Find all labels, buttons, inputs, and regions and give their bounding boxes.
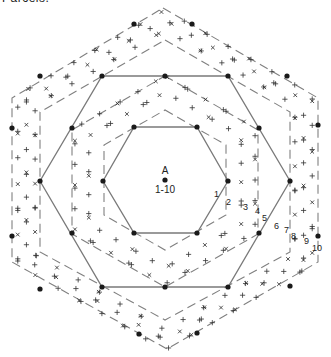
cross-marker: [221, 248, 226, 253]
cross-marker: [32, 108, 37, 113]
point-dot: [225, 178, 230, 183]
point-dot: [9, 125, 14, 130]
cross-marker: [71, 60, 76, 65]
cross-marker: [92, 48, 97, 53]
cross-marker: [292, 139, 297, 144]
cross-marker: [106, 50, 111, 55]
cross-marker: [91, 69, 96, 74]
cross-marker: [115, 310, 120, 315]
point-dot: [194, 330, 199, 335]
cross-marker: [165, 262, 172, 269]
cross-marker: [48, 73, 53, 78]
cross-marker: [76, 277, 81, 282]
cross-marker: [292, 92, 299, 99]
cross-marker: [129, 245, 136, 252]
point-dot: [162, 177, 167, 182]
ring-label: 9: [304, 236, 309, 246]
cross-marker: [284, 255, 291, 262]
cross-marker: [188, 331, 195, 338]
cross-marker: [202, 96, 209, 103]
center-sublabel: 1-10: [155, 184, 175, 195]
cross-marker: [292, 188, 297, 193]
cross-marker: [14, 180, 21, 187]
vertex-dots: [9, 21, 320, 336]
cross-marker: [34, 253, 39, 258]
point-dot: [37, 178, 42, 183]
cross-marker: [269, 69, 274, 74]
cross-marker: [24, 172, 29, 177]
cross-marker: [86, 150, 91, 155]
cross-marker: [113, 237, 118, 242]
cross-marker: [231, 308, 236, 313]
cross-marker: [24, 242, 29, 247]
cross-marker: [189, 33, 194, 38]
cross-marker: [282, 97, 287, 102]
cross-marker: [168, 20, 175, 27]
cross-marker: [301, 160, 306, 165]
point-dot: [194, 230, 199, 235]
cross-marker: [97, 111, 102, 116]
cross-marker: [217, 304, 224, 311]
cross-marker: [32, 206, 37, 211]
cross-marker: [86, 211, 91, 216]
cross-marker: [72, 206, 77, 211]
point-dot: [189, 21, 194, 26]
cross-marker: [292, 115, 297, 120]
point-dot: [194, 124, 199, 129]
cross-marker: [210, 117, 215, 122]
cross-marker: [301, 255, 306, 260]
point-dot: [99, 284, 104, 289]
point-dot: [69, 125, 74, 130]
cross-marker: [167, 20, 172, 25]
cross-marker: [15, 155, 20, 160]
cross-marker: [32, 132, 37, 137]
point-dot: [162, 73, 167, 78]
ring-label: 7: [284, 225, 289, 235]
cross-marker: [310, 96, 315, 101]
cross-marker: [69, 81, 74, 86]
cross-marker: [143, 336, 148, 341]
cross-marker: [250, 68, 257, 75]
cross-marker: [31, 228, 38, 235]
cross-marker: [239, 142, 244, 147]
cross-marker: [241, 236, 246, 241]
cross-marker: [205, 113, 212, 120]
cross-marker: [291, 163, 298, 170]
cross-marker: [24, 219, 29, 224]
point-dot: [256, 230, 261, 235]
cross-marker: [254, 295, 259, 300]
cross-marker: [173, 96, 178, 101]
point-dot: [225, 284, 230, 289]
cross-marker: [291, 211, 298, 218]
cross-marker: [310, 147, 315, 152]
cross-marker: [93, 297, 98, 302]
ring-label: 4: [255, 206, 260, 216]
cross-marker: [14, 231, 21, 238]
cross-marker: [275, 280, 282, 287]
cross-marker: [186, 252, 191, 257]
cross-marker: [301, 208, 306, 213]
cross-marker: [152, 78, 159, 85]
cross-marker: [133, 249, 138, 254]
cross-marker: [53, 264, 60, 271]
cross-marker: [177, 36, 182, 41]
cross-marker: [222, 293, 227, 298]
cross-marker: [261, 280, 266, 285]
cross-marker: [53, 274, 60, 281]
cross-marker: [209, 44, 216, 51]
cross-marker: [226, 126, 231, 131]
cross-marker: [239, 161, 244, 166]
point-dot: [131, 124, 136, 129]
cross-marker: [240, 293, 245, 298]
cross-marker: [310, 173, 315, 178]
cross-marker: [153, 31, 160, 38]
cross-marker: [24, 147, 29, 152]
cross-marker: [43, 85, 50, 92]
cross-marker: [201, 241, 208, 248]
cross-marker: [259, 280, 266, 287]
cross-marker: [32, 262, 37, 267]
cross-marker: [310, 123, 315, 128]
ring-label: 8: [291, 231, 296, 241]
hexagonal-ring-diagram: 12345678910 A 1-10: [0, 0, 331, 357]
cross-marker: [264, 269, 269, 274]
